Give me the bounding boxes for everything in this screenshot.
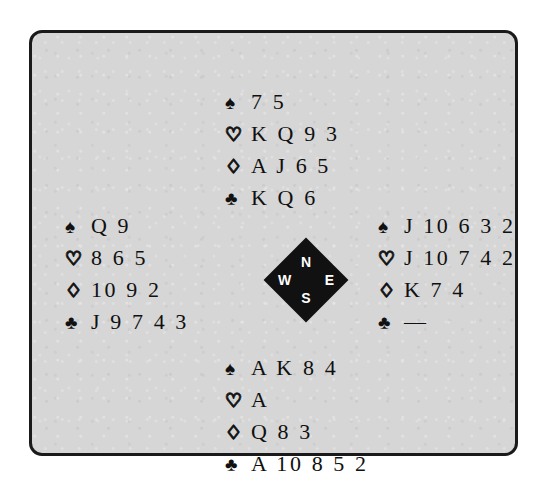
hand-west: ♠ Q 9 ♡ 8 6 5 ♢ 10 9 2 ♣ J 9 7 4 3 [65, 215, 189, 343]
hand-south-hearts-row: ♡ A [225, 389, 369, 421]
hand-south-diamonds-row: ♢ Q 8 3 [225, 421, 369, 453]
diamond-icon: ♢ [65, 281, 91, 300]
compass-diamond-shape [264, 238, 349, 323]
compass-label-east: E [325, 273, 334, 287]
hand-north-diamonds-row: ♢ A J 6 5 [225, 155, 339, 187]
hand-south-clubs-cards: A 10 8 5 2 [251, 453, 369, 475]
club-icon: ♣ [225, 455, 251, 474]
hand-west-spades-row: ♠ Q 9 [65, 215, 189, 247]
hand-south: ♠ A K 8 4 ♡ A ♢ Q 8 3 ♣ A 10 8 5 2 [225, 357, 369, 485]
hand-south-diamonds-cards: Q 8 3 [251, 421, 313, 443]
hand-east-clubs-cards: — [404, 311, 429, 333]
diamond-icon: ♢ [225, 423, 251, 442]
hand-north-spades-row: ♠ 7 5 [225, 91, 339, 123]
hand-east-diamonds-cards: K 7 4 [404, 279, 466, 301]
heart-icon: ♡ [225, 391, 251, 410]
hand-east-hearts-cards: J 10 7 4 2 [404, 247, 516, 269]
hand-west-hearts-row: ♡ 8 6 5 [65, 247, 189, 279]
hand-west-hearts-cards: 8 6 5 [91, 247, 148, 269]
hand-east-hearts-row: ♡ J 10 7 4 2 [378, 247, 516, 279]
hand-east-clubs-row: ♣ — [378, 311, 516, 343]
hand-south-hearts-cards: A [251, 389, 270, 411]
spade-icon: ♠ [225, 93, 251, 112]
heart-icon: ♡ [378, 249, 404, 268]
compass-label-west: W [278, 273, 291, 287]
hand-north-diamonds-cards: A J 6 5 [251, 155, 331, 177]
club-icon: ♣ [378, 313, 404, 332]
hand-west-clubs-cards: J 9 7 4 3 [91, 311, 189, 333]
spade-icon: ♠ [378, 217, 404, 236]
compass-label-south: S [264, 291, 348, 305]
hand-east-spades-cards: J 10 6 3 2 [404, 215, 516, 237]
heart-icon: ♡ [225, 125, 251, 144]
hand-north-hearts-row: ♡ K Q 9 3 [225, 123, 339, 155]
hand-west-spades-cards: Q 9 [91, 215, 131, 237]
hand-south-clubs-row: ♣ A 10 8 5 2 [225, 453, 369, 485]
hand-west-diamonds-row: ♢ 10 9 2 [65, 279, 189, 311]
hand-west-clubs-row: ♣ J 9 7 4 3 [65, 311, 189, 343]
bridge-deal-diagram: ♠ 7 5 ♡ K Q 9 3 ♢ A J 6 5 ♣ K Q 6 ♠ Q 9 … [29, 30, 518, 456]
hand-east-diamonds-row: ♢ K 7 4 [378, 279, 516, 311]
diamond-icon: ♢ [225, 157, 251, 176]
hand-east-spades-row: ♠ J 10 6 3 2 [378, 215, 516, 247]
hand-south-spades-cards: A K 8 4 [251, 357, 338, 379]
heart-icon: ♡ [65, 249, 91, 268]
hand-east: ♠ J 10 6 3 2 ♡ J 10 7 4 2 ♢ K 7 4 ♣ — [378, 215, 516, 343]
compass-rose: N W E S [264, 238, 348, 322]
spade-icon: ♠ [225, 359, 251, 378]
hand-north: ♠ 7 5 ♡ K Q 9 3 ♢ A J 6 5 ♣ K Q 6 [225, 91, 339, 219]
hand-north-spades-cards: 7 5 [251, 91, 286, 113]
hand-north-hearts-cards: K Q 9 3 [251, 123, 339, 145]
hand-north-clubs-row: ♣ K Q 6 [225, 187, 339, 219]
hand-south-spades-row: ♠ A K 8 4 [225, 357, 369, 389]
club-icon: ♣ [225, 189, 251, 208]
compass-label-north: N [264, 255, 348, 269]
diamond-icon: ♢ [378, 281, 404, 300]
hand-north-clubs-cards: K Q 6 [251, 187, 318, 209]
spade-icon: ♠ [65, 217, 91, 236]
club-icon: ♣ [65, 313, 91, 332]
hand-west-diamonds-cards: 10 9 2 [91, 279, 162, 301]
